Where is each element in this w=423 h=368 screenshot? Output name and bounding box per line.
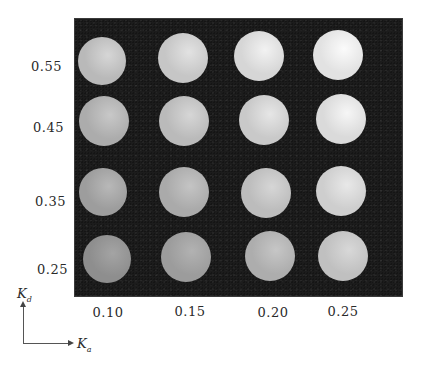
sphere-kd-0.25-ka-0.25	[318, 231, 368, 281]
sphere-kd-0.55-ka-0.10	[78, 37, 126, 85]
shading-parameter-figure: 0.55 0.45 0.35 0.25 0.10 0.15 0.20 0.25 …	[0, 0, 423, 368]
sphere-kd-0.45-ka-0.25	[316, 94, 366, 144]
y-tick-label: 0.55	[22, 59, 62, 74]
sphere-kd-0.35-ka-0.25	[316, 166, 366, 216]
sphere-kd-0.35-ka-0.20	[241, 168, 291, 218]
x-tick-label: 0.10	[83, 305, 133, 320]
y-tick-label: 0.35	[26, 194, 66, 209]
x-axis-arrow-icon	[23, 343, 69, 344]
sphere-kd-0.25-ka-0.15	[161, 232, 211, 282]
sphere-kd-0.55-ka-0.25	[313, 30, 363, 80]
y-axis-arrow-icon	[23, 306, 24, 344]
sphere-kd-0.35-ka-0.15	[159, 167, 209, 217]
x-tick-label: 0.20	[248, 305, 298, 320]
sphere-kd-0.45-ka-0.20	[239, 95, 289, 145]
sphere-kd-0.55-ka-0.20	[234, 31, 284, 81]
sphere-kd-0.25-ka-0.10	[83, 235, 131, 283]
sphere-kd-0.35-ka-0.10	[79, 168, 127, 216]
y-axis-label: Kd	[17, 286, 32, 304]
x-tick-label: 0.15	[165, 304, 215, 319]
sphere-kd-0.45-ka-0.10	[79, 96, 129, 146]
y-tick-label: 0.25	[28, 262, 68, 277]
x-tick-label: 0.25	[318, 304, 368, 319]
sphere-kd-0.55-ka-0.15	[158, 33, 208, 83]
sphere-kd-0.45-ka-0.15	[159, 96, 209, 146]
sphere-kd-0.25-ka-0.20	[245, 231, 295, 281]
y-tick-label: 0.45	[24, 120, 64, 135]
x-axis-label: Ka	[77, 336, 92, 354]
